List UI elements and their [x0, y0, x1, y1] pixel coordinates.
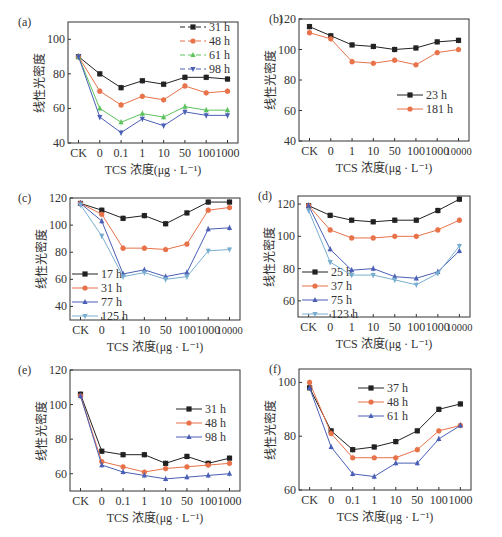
- x-tick-label: 10000: [216, 325, 242, 336]
- x-tick-label: 0: [328, 144, 334, 158]
- x-tick-label: 50: [179, 146, 191, 160]
- data-point: [99, 449, 104, 454]
- x-tick-label: CK: [301, 493, 318, 507]
- data-point: [371, 219, 376, 224]
- panel-label: (f): [269, 362, 281, 376]
- x-tick-label: 1: [139, 146, 145, 160]
- y-tick-label: 100: [278, 43, 296, 57]
- legend-marker: [82, 271, 87, 276]
- y-tick-label: 80: [55, 432, 67, 446]
- x-tick-label: CK: [72, 494, 89, 508]
- data-point: [206, 208, 211, 213]
- data-point: [307, 380, 312, 385]
- legend-item: 23 h: [397, 88, 447, 102]
- legend-item: 25 h: [302, 265, 352, 279]
- data-point: [415, 428, 420, 433]
- legend-marker: [312, 269, 317, 274]
- series-25h: [306, 196, 462, 225]
- y-axis-label: 线性光密度: [34, 401, 49, 461]
- x-tick-label: 0.1: [345, 493, 360, 507]
- x-tick-label: 50: [181, 494, 193, 508]
- legend-label: 37 h: [331, 279, 352, 293]
- x-tick-label: 0: [97, 146, 103, 160]
- y-tick-label: 120: [278, 12, 296, 26]
- x-tick-label: 1: [120, 323, 126, 337]
- legend-marker: [190, 24, 195, 29]
- x-tick-label: 10000: [445, 146, 471, 157]
- y-tick-label: 80: [53, 67, 65, 81]
- y-tick-label: 120: [277, 197, 295, 211]
- data-point: [436, 428, 441, 433]
- data-point: [163, 461, 168, 466]
- legend-marker: [190, 38, 195, 43]
- x-tick-label: 100: [178, 323, 196, 337]
- y-tick-label: 100: [47, 32, 65, 46]
- data-point: [435, 39, 440, 44]
- data-point: [435, 208, 440, 213]
- data-point: [142, 452, 147, 457]
- data-point: [227, 471, 232, 476]
- legend-item: 61 h: [358, 409, 408, 423]
- data-point: [99, 212, 104, 217]
- x-axis-label: TCS 浓度(μg · L⁻¹): [336, 336, 433, 351]
- data-point: [206, 199, 211, 204]
- data-point: [415, 447, 420, 452]
- data-point: [328, 246, 333, 251]
- data-point: [118, 102, 123, 107]
- data-point: [350, 447, 355, 452]
- data-point: [184, 464, 189, 469]
- panel-label: (c): [18, 191, 31, 205]
- data-point: [225, 89, 230, 94]
- chart-a: (a)406080100CK00.1110501001000TCS 浓度(μg …: [0, 0, 251, 180]
- legend-marker: [368, 385, 373, 390]
- data-point: [328, 213, 333, 218]
- x-tick-label: CK: [300, 320, 317, 334]
- legend-marker: [186, 420, 191, 425]
- legend-label: 61 h: [387, 409, 408, 423]
- data-point: [371, 235, 376, 240]
- y-axis-label: 线性光密度: [32, 53, 47, 113]
- data-point: [161, 82, 166, 87]
- data-point: [204, 90, 209, 95]
- legend-marker: [312, 283, 317, 288]
- data-point: [97, 105, 102, 110]
- y-tick-label: 100: [277, 229, 295, 243]
- x-tick-label: 50: [389, 320, 401, 334]
- data-point: [371, 61, 376, 66]
- y-tick-label: 60: [55, 467, 67, 481]
- x-tick-label: 50: [411, 493, 423, 507]
- chart-f: (f)6080100CK00.1110501001000TCS 浓度(μg · …: [251, 355, 502, 537]
- x-tick-label: 10: [367, 144, 379, 158]
- data-point: [414, 234, 419, 239]
- legend-label: 48 h: [209, 34, 230, 48]
- legend-label: 48 h: [205, 416, 226, 430]
- y-tick-label: 80: [284, 73, 296, 87]
- x-tick-label: CK: [301, 144, 318, 158]
- x-tick-label: CK: [72, 323, 89, 337]
- data-point: [392, 218, 397, 223]
- legend-marker: [368, 399, 373, 404]
- y-tick-label: 100: [49, 398, 67, 412]
- x-tick-label: 1: [141, 494, 147, 508]
- x-tick-label: 10: [390, 493, 402, 507]
- chart-c: (c)406080100120CK011050100100010000TCS 浓…: [0, 180, 251, 360]
- series-37h: [307, 385, 463, 453]
- data-point: [120, 246, 125, 251]
- panel-f: (f)6080100CK00.1110501001000TCS 浓度(μg · …: [251, 355, 502, 537]
- legend-item: 125 h: [72, 309, 128, 323]
- data-point: [329, 431, 334, 436]
- legend-item: 37 h: [302, 279, 352, 293]
- panel-b: (b)406080100120CK011050100100010000TCS 浓…: [251, 0, 502, 180]
- data-point: [227, 456, 232, 461]
- data-point: [392, 58, 397, 63]
- data-point: [184, 454, 189, 459]
- x-tick-label: 100: [407, 320, 425, 334]
- data-point: [457, 218, 462, 223]
- panel-d: (d)6080100120CK011050100100010000TCS 浓度(…: [240, 180, 502, 360]
- data-point: [120, 452, 125, 457]
- data-point: [140, 78, 145, 83]
- data-point: [371, 266, 376, 271]
- data-point: [413, 62, 418, 67]
- data-point: [436, 407, 441, 412]
- x-tick-label: 10: [158, 146, 170, 160]
